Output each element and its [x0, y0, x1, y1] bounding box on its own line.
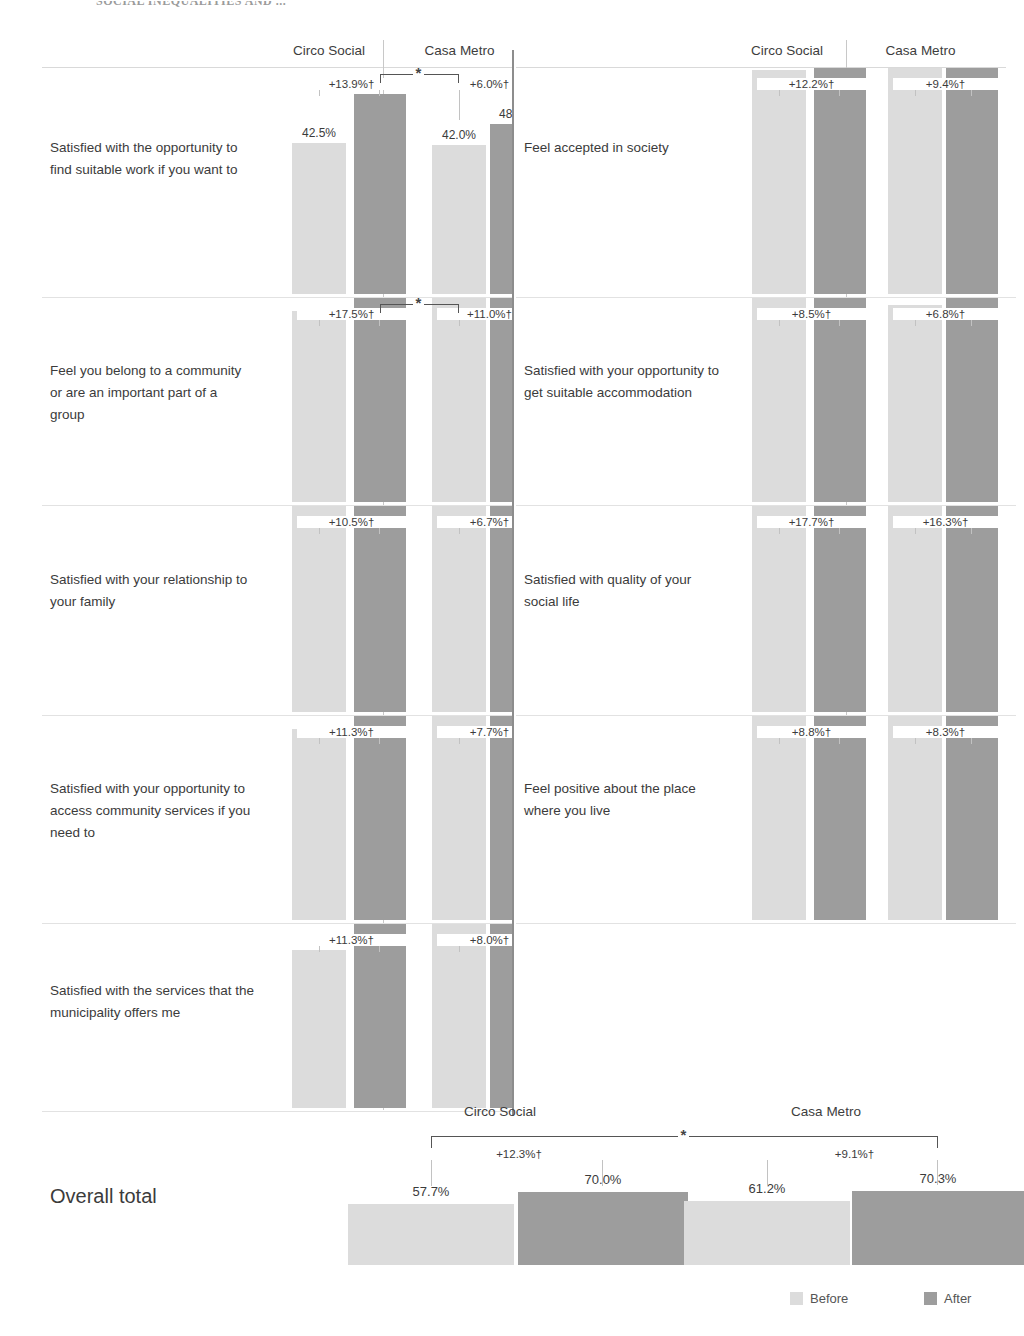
bar-after-circo — [354, 506, 406, 712]
header-casa-metro-left: Casa Metro — [397, 43, 522, 58]
chart-row-community-services: Satisfied with your opportunity to acces… — [42, 716, 514, 924]
legend-label-before: Before — [810, 1291, 848, 1306]
legend-swatch-before — [790, 1292, 803, 1305]
overall-bar-before-casa — [684, 1201, 850, 1265]
header-circo-social-right: Circo Social — [722, 43, 852, 58]
overall-delta-label: +12.3%† — [405, 1148, 633, 1160]
chart-row-suitable-work: Satisfied with the opportunity to find s… — [42, 68, 514, 298]
bar-after-circo — [814, 298, 866, 502]
overall-delta-bracket — [767, 1156, 938, 1185]
question-label: Satisfied with the services that the mun… — [50, 980, 255, 1024]
overall-delta-label: +9.1%† — [741, 1148, 968, 1160]
overall-total-section: Circo Social Casa Metro Overall total 57… — [0, 1100, 1024, 1300]
chart-row-family-relationship: Satisfied with your relationship to your… — [42, 506, 514, 716]
bar-before-casa — [888, 68, 942, 294]
bar-after-casa — [946, 298, 998, 502]
bar-after-circo — [354, 298, 406, 502]
bar-before-circo — [292, 729, 346, 920]
bar-after-circo — [814, 68, 866, 294]
right-column-headers: Circo Social Casa Metro — [516, 40, 1016, 67]
overall-value-before-circo: 57.7% — [338, 1184, 524, 1199]
delta-label: +9.4%† — [893, 78, 998, 90]
bar-after-circo — [354, 716, 406, 920]
question-label: Satisfied with your opportunity to get s… — [524, 360, 729, 404]
overall-delta-bracket — [431, 1156, 603, 1186]
bar-after-casa — [490, 124, 514, 294]
bar-before-circo — [292, 143, 346, 294]
bar-before-casa — [432, 716, 486, 920]
bar-after-casa — [946, 68, 998, 294]
bar-before-casa — [432, 298, 486, 502]
delta-label: +6.7%† — [437, 516, 514, 528]
chart-row-municipality-services: Satisfied with the services that the mun… — [42, 924, 514, 1112]
question-label: Satisfied with the opportunity to find s… — [50, 137, 255, 181]
chart-row-social-life: Satisfied with quality of your social li… — [516, 506, 1016, 716]
panel-grid: Circo Social Casa Metro Satisfied with t… — [0, 40, 1024, 1110]
bar-before-circo — [292, 506, 346, 712]
question-label: Feel you belong to a community or are an… — [50, 360, 255, 426]
center-column-divider — [512, 50, 514, 1115]
significance-star: * — [413, 68, 425, 78]
bar-before-casa — [432, 145, 486, 294]
header-circo-social-left: Circo Social — [264, 43, 394, 58]
question-label: Feel positive about the place where you … — [524, 778, 729, 822]
bar-before-casa — [888, 305, 942, 502]
delta-label: +16.3%† — [893, 516, 998, 528]
chart-row-suitable-accommodation: Satisfied with your opportunity to get s… — [516, 298, 1016, 506]
bar-before-circo — [752, 506, 806, 712]
delta-label: +17.7%† — [757, 516, 866, 528]
bar-before-casa — [888, 716, 942, 920]
bar-after-casa — [490, 506, 514, 712]
bar-value-before-circo: 42.5% — [284, 126, 354, 140]
bar-before-circo — [752, 70, 806, 294]
bar-before-casa — [888, 506, 942, 712]
significance-star: * — [413, 298, 425, 308]
bar-before-circo — [292, 950, 346, 1108]
delta-label: +7.7%† — [437, 726, 514, 738]
overall-bar-after-circo — [518, 1192, 688, 1266]
bar-after-casa — [946, 506, 998, 712]
question-label: Satisfied with your opportunity to acces… — [50, 778, 255, 844]
header-casa-metro-right: Casa Metro — [858, 43, 983, 58]
bar-before-circo — [292, 311, 346, 502]
question-label: Satisfied with your relationship to your… — [50, 569, 255, 613]
delta-label: +11.3%† — [297, 934, 406, 946]
legend-swatch-after — [924, 1292, 937, 1305]
chart-row-belong-community: Feel you belong to a community or are an… — [42, 298, 514, 506]
legend-label-after: After — [944, 1291, 971, 1306]
right-panel-column: Circo Social Casa Metro Feel accepted in… — [516, 40, 1016, 1110]
delta-label: +12.2%† — [757, 78, 866, 90]
delta-label: +8.5%† — [757, 308, 866, 320]
bar-before-circo — [752, 298, 806, 502]
bar-after-casa — [490, 298, 514, 502]
page-title: SOCIAL INEQUALITIES AND ... — [96, 0, 286, 9]
overall-significance-star: * — [678, 1130, 690, 1140]
bar-after-circo — [354, 94, 406, 294]
overall-bar-before-circo — [348, 1204, 514, 1265]
row-divider — [516, 923, 1016, 924]
left-panel-column: Circo Social Casa Metro Satisfied with t… — [42, 40, 514, 1110]
delta-label: +11.3%† — [297, 726, 406, 738]
chart-row-place-where-you-live: Feel positive about the place where you … — [516, 716, 1016, 924]
delta-label: +8.3%† — [893, 726, 998, 738]
delta-label: +10.5%† — [297, 516, 406, 528]
question-label: Satisfied with quality of your social li… — [524, 569, 729, 613]
bar-before-casa — [432, 506, 486, 712]
bar-after-casa — [946, 716, 998, 920]
overall-header-circo: Circo Social — [430, 1104, 570, 1119]
overall-header-casa: Casa Metro — [756, 1104, 896, 1119]
delta-label: +6.8%† — [893, 308, 998, 320]
delta-label: +8.0%† — [437, 934, 514, 946]
bar-value-before-casa: 42.0% — [424, 128, 494, 142]
question-label: Feel accepted in society — [524, 137, 729, 159]
delta-label: +8.8%† — [757, 726, 866, 738]
left-column-headers: Circo Social Casa Metro — [42, 40, 514, 67]
chart-row-accepted-society: Feel accepted in society+12.2%†+9.4%† — [516, 68, 1016, 298]
delta-bracket — [459, 86, 514, 120]
overall-total-label: Overall total — [50, 1185, 157, 1208]
bar-after-casa — [490, 716, 514, 920]
overall-bar-after-casa — [852, 1191, 1024, 1265]
bar-before-circo — [752, 716, 806, 920]
bar-after-circo — [814, 506, 866, 712]
bar-after-circo — [814, 716, 866, 920]
